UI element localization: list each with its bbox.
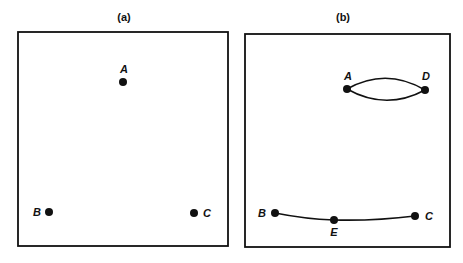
- node-d: [421, 86, 429, 94]
- edge-b-e-c: [275, 213, 415, 220]
- node-e-label: E: [330, 226, 338, 238]
- node-d-label: D: [422, 70, 430, 82]
- node-c: [190, 209, 198, 217]
- panel-b-title: (b): [336, 11, 350, 23]
- node-a: [119, 78, 127, 86]
- panel-b: (b) A D B E C: [245, 11, 450, 247]
- node-b-label: B: [33, 206, 41, 218]
- node-c-label: C: [425, 210, 434, 222]
- panel-a-title: (a): [117, 11, 131, 23]
- diagram-canvas: (a) A B C (b) A D B E C: [0, 0, 463, 263]
- panel-a: (a) A B C: [18, 11, 228, 246]
- node-b-label: B: [258, 207, 266, 219]
- edge-a-d-upper: [347, 78, 425, 90]
- node-c-label: C: [203, 207, 212, 219]
- node-b: [271, 209, 279, 217]
- node-b: [45, 208, 53, 216]
- node-a-label: A: [343, 70, 352, 82]
- node-c: [411, 212, 419, 220]
- node-e: [330, 216, 338, 224]
- node-a-label: A: [119, 63, 128, 75]
- node-a: [343, 85, 351, 93]
- edge-a-d-lower: [347, 89, 425, 100]
